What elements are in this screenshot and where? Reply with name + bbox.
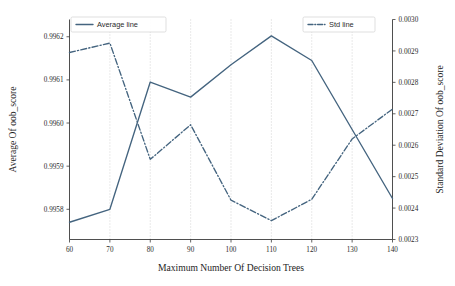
y-left-tick-label: 0.9959 <box>44 163 64 171</box>
x-axis-title: Maximum Number Of Decision Trees <box>158 262 304 273</box>
legend-std-label: Std line <box>329 20 354 29</box>
x-tick-label: 80 <box>147 246 155 254</box>
y-left-tick-label: 0.9962 <box>44 33 64 41</box>
x-tick-label: 110 <box>266 246 277 254</box>
chart-container: 60708090100110120130140 0.99580.99590.99… <box>0 0 455 286</box>
y-right-tick-label: 0.0024 <box>399 205 419 213</box>
y-axis-left-title: Average Of oob_score <box>7 86 18 172</box>
legend-average[interactable]: Average line <box>71 17 166 32</box>
y-right-tick-label: 0.0029 <box>399 48 419 56</box>
legend-std[interactable]: Std line <box>303 17 375 32</box>
y-right-tick-label: 0.0023 <box>399 236 419 244</box>
y-right-tick-label: 0.0026 <box>399 142 419 150</box>
y-right-tick-label: 0.0028 <box>399 79 419 87</box>
x-tick-label: 70 <box>106 246 114 254</box>
y-right-tick-label: 0.0030 <box>399 16 419 24</box>
x-tick-label: 90 <box>187 246 195 254</box>
x-tick-label: 100 <box>226 246 237 254</box>
y-left-tick-label: 0.9958 <box>44 206 64 214</box>
y-left-tick-label: 0.9960 <box>44 120 64 128</box>
x-tick-label: 130 <box>347 246 358 254</box>
y-axis-right-title: Standard Deviation Of oob_score <box>434 65 445 194</box>
y-left-tick-label: 0.9961 <box>44 76 64 84</box>
x-tick-label: 120 <box>306 246 317 254</box>
y-right-tick-label: 0.0025 <box>399 173 419 181</box>
line-chart: 60708090100110120130140 0.99580.99590.99… <box>0 0 455 286</box>
chart-background <box>0 0 455 286</box>
x-tick-label: 60 <box>66 246 74 254</box>
y-right-tick-label: 0.0027 <box>399 110 419 118</box>
x-tick-label: 140 <box>387 246 398 254</box>
legend-average-label: Average line <box>97 20 138 29</box>
